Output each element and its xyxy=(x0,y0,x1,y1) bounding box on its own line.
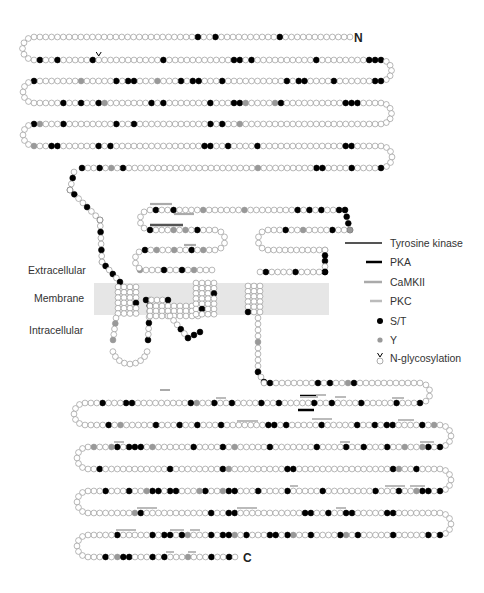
st-site-residue xyxy=(133,300,139,306)
residue xyxy=(378,444,384,450)
residue xyxy=(290,100,296,106)
residue xyxy=(72,100,78,106)
residue xyxy=(361,143,367,149)
residue xyxy=(133,260,139,266)
residue xyxy=(78,121,84,127)
residue xyxy=(212,422,218,428)
st-site-residue xyxy=(320,488,326,494)
residue xyxy=(102,57,108,63)
residue xyxy=(425,422,431,428)
residue xyxy=(72,143,78,149)
residue xyxy=(337,165,343,171)
residue xyxy=(296,143,302,149)
st-site-residue xyxy=(61,100,67,106)
residue xyxy=(290,165,296,171)
residue xyxy=(319,143,325,149)
y-site-residue xyxy=(194,400,200,406)
residue xyxy=(132,554,138,560)
residue xyxy=(355,488,361,494)
y-site-residue xyxy=(154,247,160,253)
residue xyxy=(220,165,226,171)
residue xyxy=(178,121,184,127)
residue xyxy=(183,313,189,319)
residue xyxy=(405,400,411,406)
residue xyxy=(261,100,267,106)
st-site-residue xyxy=(96,100,102,106)
residue xyxy=(166,121,172,127)
residue xyxy=(200,227,206,233)
residue xyxy=(91,510,97,516)
residue xyxy=(155,143,161,149)
st-site-residue xyxy=(123,400,129,406)
extracellular-label: Extracellular xyxy=(28,264,86,276)
st-site-residue xyxy=(437,444,443,450)
residue xyxy=(150,510,156,516)
residue xyxy=(349,466,355,472)
st-site-residue xyxy=(126,554,132,560)
residue xyxy=(287,269,293,275)
residue xyxy=(202,100,208,106)
residue xyxy=(132,488,138,494)
residue xyxy=(372,100,378,106)
residue xyxy=(165,247,171,253)
st-site-residue xyxy=(49,143,55,149)
residue xyxy=(247,400,253,406)
residue xyxy=(259,229,265,235)
residue xyxy=(147,400,153,406)
y-site-residue xyxy=(255,165,261,171)
st-site-residue xyxy=(195,34,201,40)
y-site-residue xyxy=(242,207,248,213)
y-site-residue xyxy=(243,100,249,106)
residue xyxy=(73,406,79,412)
residue xyxy=(317,400,323,406)
residue xyxy=(126,510,132,516)
st-site-residue xyxy=(191,332,197,338)
residue xyxy=(115,295,121,301)
residue xyxy=(325,143,331,149)
st-site-residue xyxy=(145,337,151,343)
residue xyxy=(213,57,219,63)
st-site-residue xyxy=(322,253,328,259)
legend-glyc-icon xyxy=(378,353,383,357)
residue xyxy=(255,333,261,339)
residue xyxy=(90,100,96,106)
residue xyxy=(177,247,183,253)
residue xyxy=(119,100,125,106)
residue xyxy=(195,247,201,253)
residue xyxy=(313,143,319,149)
residue xyxy=(337,57,343,63)
residue xyxy=(265,34,271,40)
residue xyxy=(387,380,393,386)
residue xyxy=(313,100,319,106)
st-site-residue xyxy=(191,444,197,450)
residue xyxy=(160,297,166,303)
residue xyxy=(443,443,449,449)
y-site-residue xyxy=(420,444,426,450)
residue xyxy=(206,247,212,253)
residue xyxy=(76,450,82,456)
st-site-residue xyxy=(185,335,191,341)
y-site-residue xyxy=(402,444,408,450)
st-site-residue xyxy=(120,554,126,560)
residue xyxy=(231,143,237,149)
st-site-residue xyxy=(150,554,156,560)
residue xyxy=(347,400,353,406)
residue xyxy=(373,466,379,472)
residue xyxy=(212,247,218,253)
residue xyxy=(137,143,143,149)
residue xyxy=(337,78,343,84)
residue xyxy=(378,422,384,428)
st-site-residue xyxy=(396,488,402,494)
residue xyxy=(284,121,290,127)
residue xyxy=(278,165,284,171)
residue xyxy=(265,207,271,213)
st-site-residue xyxy=(331,78,337,84)
residue xyxy=(348,422,354,428)
residue xyxy=(431,532,437,538)
residue xyxy=(261,143,267,149)
residue xyxy=(255,78,261,84)
residue xyxy=(49,100,55,106)
st-site-residue xyxy=(232,510,238,516)
st-site-residue xyxy=(225,143,231,149)
y-site-residue xyxy=(155,78,161,84)
